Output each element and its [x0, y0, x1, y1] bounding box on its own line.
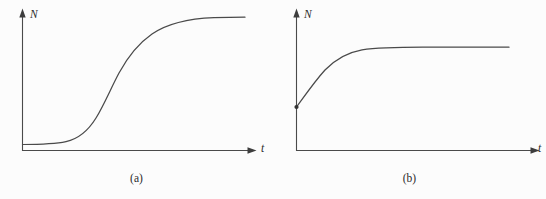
- chart-a-canvas: [0, 0, 273, 175]
- chart-b-start-dot-marker: [294, 105, 298, 109]
- panel-caption-b: (b): [273, 173, 546, 185]
- x-axis-label-b: t: [538, 143, 541, 155]
- panel-caption-a: (a): [0, 173, 273, 185]
- chart-b-canvas: [273, 0, 546, 175]
- x-axis-label-a: t: [261, 143, 264, 155]
- y-axis-arrowhead-b: [293, 9, 299, 18]
- chart-panel-b: N t (b): [273, 0, 546, 199]
- y-axis-label-b: N: [304, 9, 312, 21]
- chart-b-saturating-curve: [297, 47, 510, 107]
- y-axis-label-a: N: [30, 9, 38, 21]
- chart-panel-a: N t (a): [0, 0, 273, 199]
- y-axis-arrowhead-a: [19, 9, 25, 18]
- chart-a-logistic-curve: [23, 17, 246, 144]
- figure-container: N t (a) N t (b): [0, 0, 546, 199]
- x-axis-arrowhead-a: [248, 147, 257, 153]
